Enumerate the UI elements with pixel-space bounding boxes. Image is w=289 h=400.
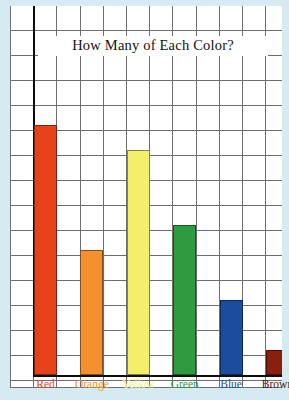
x-axis-tick-labels: RedOrangeYellowGreenBlueBrown [10, 377, 282, 397]
paper-sheet: How Many of Each Color? [10, 6, 282, 388]
bar-green [173, 225, 196, 375]
plot-area [10, 6, 282, 388]
bar-yellow [127, 150, 150, 375]
x-label-brown: Brown [256, 377, 289, 391]
graph-paper-page: How Many of Each Color? RedOrangeYellowG… [0, 0, 289, 400]
bar-orange [80, 250, 103, 375]
x-label-yellow: Yellow [117, 377, 160, 391]
x-label-green: Green [163, 377, 206, 391]
bar-brown [266, 350, 282, 375]
chart-title: How Many of Each Color? [38, 36, 268, 56]
bar-blue [220, 300, 243, 375]
bar-red [34, 125, 57, 375]
x-label-blue: Blue [210, 377, 253, 391]
x-label-orange: Orange [70, 377, 113, 391]
x-label-red: Red [24, 377, 67, 391]
